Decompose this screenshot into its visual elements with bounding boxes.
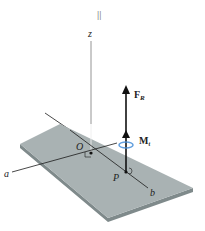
force-arrowhead <box>122 85 130 94</box>
axis-b-label: b <box>150 187 155 198</box>
moment-arrowhead <box>122 130 130 138</box>
plate-surface <box>20 124 193 218</box>
axis-a-label: a <box>4 168 9 179</box>
z-axis-label: z <box>87 28 92 39</box>
parallel-mark: || <box>97 8 101 20</box>
force-label: FR <box>134 89 145 102</box>
moment-label: Mt <box>139 135 150 147</box>
point-p <box>124 170 127 173</box>
origin-point <box>89 151 92 154</box>
origin-label: O <box>76 141 83 152</box>
diagram-canvas: || z a b O FR Mt P <box>0 0 205 231</box>
point-p-label: P <box>112 172 119 183</box>
